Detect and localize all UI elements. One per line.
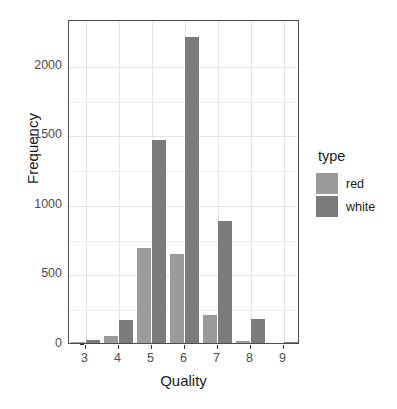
x-tick-mark bbox=[118, 345, 119, 349]
bar-red-8 bbox=[236, 341, 251, 344]
bar-red-5 bbox=[137, 248, 152, 343]
bar-white-6 bbox=[185, 37, 200, 343]
x-tick-label: 6 bbox=[172, 352, 196, 365]
bar-red-7 bbox=[203, 315, 218, 343]
gridline-vertical bbox=[119, 21, 120, 343]
x-tick-mark bbox=[283, 345, 284, 349]
gridline-horizontal-minor bbox=[69, 102, 298, 103]
x-tick-label: 7 bbox=[205, 352, 229, 365]
y-tick-label: 1500 bbox=[22, 128, 62, 141]
gridline-horizontal bbox=[69, 136, 298, 137]
gridline-horizontal bbox=[69, 67, 298, 68]
bar-red-6 bbox=[170, 254, 185, 343]
y-tick-label: 500 bbox=[22, 267, 62, 280]
legend-entries: redwhite bbox=[316, 172, 394, 218]
bar-chart: Frequency 0500100015002000 3456789 Quali… bbox=[0, 0, 397, 409]
legend-item-red[interactable]: red bbox=[316, 172, 394, 195]
y-tick-label: 2000 bbox=[22, 59, 62, 72]
legend-swatch-red bbox=[316, 173, 338, 194]
x-tick-label: 4 bbox=[106, 352, 130, 365]
x-tick-label: 8 bbox=[238, 352, 262, 365]
gridline-horizontal-minor bbox=[69, 241, 298, 242]
plot-panel bbox=[68, 20, 299, 344]
legend-title: type bbox=[318, 148, 394, 164]
bar-white-3 bbox=[86, 340, 101, 343]
x-axis-title: Quality bbox=[68, 372, 299, 389]
y-tick-mark bbox=[80, 344, 84, 345]
gridline-vertical bbox=[284, 21, 285, 343]
bar-white-5 bbox=[152, 140, 167, 343]
x-tick-mark bbox=[184, 345, 185, 349]
bar-white-4 bbox=[119, 320, 134, 343]
x-tick-mark bbox=[85, 345, 86, 349]
bar-white-8 bbox=[251, 319, 266, 343]
bar-red-3 bbox=[71, 342, 86, 343]
gridline-vertical bbox=[251, 21, 252, 343]
y-tick-label: 0 bbox=[22, 337, 62, 350]
legend-label: white bbox=[346, 200, 375, 214]
bar-white-7 bbox=[218, 221, 233, 343]
y-tick-label: 1000 bbox=[22, 198, 62, 211]
x-tick-label: 3 bbox=[73, 352, 97, 365]
legend-label: red bbox=[346, 177, 364, 191]
bar-red-4 bbox=[104, 336, 119, 343]
legend-item-white[interactable]: white bbox=[316, 195, 394, 218]
gridline-vertical bbox=[86, 21, 87, 343]
x-tick-mark bbox=[151, 345, 152, 349]
y-axis-ticks: 0500100015002000 bbox=[18, 0, 62, 409]
x-tick-mark bbox=[250, 345, 251, 349]
x-tick-label: 9 bbox=[271, 352, 295, 365]
legend: type redwhite bbox=[316, 148, 394, 218]
legend-swatch-white bbox=[316, 196, 338, 217]
bar-white-9 bbox=[284, 342, 299, 343]
x-tick-mark bbox=[217, 345, 218, 349]
gridline-horizontal-minor bbox=[69, 171, 298, 172]
gridline-horizontal bbox=[69, 206, 298, 207]
x-tick-label: 5 bbox=[139, 352, 163, 365]
